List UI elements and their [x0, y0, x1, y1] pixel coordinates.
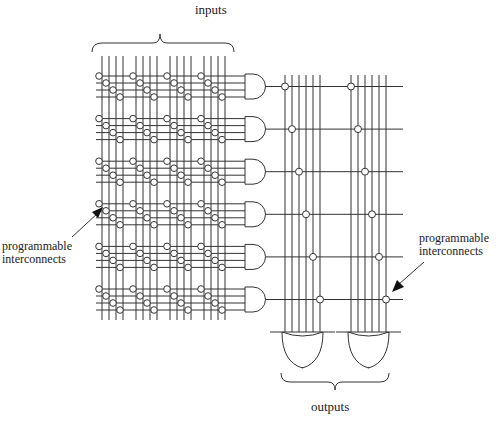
and-interconnect-node — [103, 80, 110, 87]
and-interconnect-node — [103, 208, 110, 215]
and-plane — [96, 56, 245, 320]
right-annotation-label: programmable interconnects — [419, 232, 489, 258]
right-annotation-line2: interconnects — [419, 245, 489, 258]
and-interconnect-node — [144, 215, 151, 222]
and-interconnect-node — [151, 179, 158, 186]
and-interconnect-node — [103, 250, 110, 257]
and-interconnect-node — [144, 300, 151, 307]
and-interconnect-node — [178, 300, 185, 307]
and-interconnect-node — [110, 215, 117, 222]
and-gate-icon — [245, 117, 266, 142]
and-interconnect-node — [130, 158, 137, 165]
or-gate-icon — [282, 332, 323, 368]
and-interconnect-node — [164, 115, 171, 122]
outputs-label: outputs — [311, 400, 349, 413]
and-interconnect-node — [117, 222, 124, 229]
and-interconnect-node — [110, 172, 117, 179]
or-interconnect-node — [289, 126, 296, 133]
and-interconnect-node — [137, 80, 144, 87]
and-interconnect-node — [144, 172, 151, 179]
and-interconnect-node — [117, 264, 124, 271]
and-interconnect-node — [198, 243, 205, 250]
and-interconnect-node — [137, 293, 144, 300]
and-interconnect-node — [198, 115, 205, 122]
and-interconnect-node — [151, 136, 158, 143]
and-interconnect-node — [137, 165, 144, 172]
or-interconnect-node — [348, 83, 355, 90]
inputs-label: inputs — [195, 3, 227, 16]
and-interconnect-node — [178, 129, 185, 136]
and-interconnect-node — [117, 307, 124, 314]
and-interconnect-node — [212, 300, 219, 307]
and-interconnect-node — [137, 122, 144, 129]
and-interconnect-node — [185, 94, 192, 101]
and-interconnect-node — [205, 165, 212, 172]
and-interconnect-node — [96, 201, 103, 208]
pla-diagram — [0, 0, 503, 424]
and-interconnect-node — [171, 208, 178, 215]
and-interconnect-node — [198, 286, 205, 293]
and-interconnect-node — [205, 250, 212, 257]
and-interconnect-node — [130, 286, 137, 293]
and-interconnect-node — [171, 165, 178, 172]
and-interconnect-node — [178, 257, 185, 264]
or-interconnect-node — [362, 168, 369, 175]
and-interconnect-node — [151, 264, 158, 271]
and-interconnect-node — [130, 243, 137, 250]
outputs-brace — [281, 373, 389, 390]
and-interconnect-node — [144, 257, 151, 264]
and-gate-icon — [245, 287, 266, 312]
and-interconnect-node — [164, 158, 171, 165]
and-interconnect-node — [117, 94, 124, 101]
or-gate-icon — [348, 332, 389, 368]
or-gates — [270, 332, 401, 368]
and-interconnect-node — [164, 201, 171, 208]
or-interconnect-node — [310, 253, 317, 260]
and-interconnect-node — [198, 201, 205, 208]
left-annotation-label: programmable interconnects — [2, 240, 72, 266]
or-interconnect-node — [383, 296, 390, 303]
and-interconnect-node — [219, 222, 226, 229]
and-interconnect-node — [171, 80, 178, 87]
or-interconnect-node — [376, 253, 383, 260]
and-interconnect-node — [212, 87, 219, 94]
and-interconnect-node — [185, 264, 192, 271]
and-interconnect-node — [178, 87, 185, 94]
and-interconnect-node — [96, 115, 103, 122]
and-interconnect-node — [117, 136, 124, 143]
left-annotation-line2: interconnects — [2, 253, 72, 266]
and-interconnect-node — [96, 73, 103, 80]
and-interconnect-node — [164, 73, 171, 80]
and-gate-icon — [245, 159, 266, 184]
inputs-brace — [92, 34, 234, 52]
and-interconnect-node — [96, 158, 103, 165]
annotation-arrows — [72, 207, 424, 292]
or-interconnect-node — [282, 83, 289, 90]
and-interconnect-node — [137, 250, 144, 257]
and-interconnect-node — [219, 307, 226, 314]
and-interconnect-node — [110, 87, 117, 94]
or-interconnect-node — [355, 126, 362, 133]
and-interconnect-node — [103, 293, 110, 300]
or-interconnect-node — [369, 211, 376, 218]
and-interconnect-node — [185, 222, 192, 229]
or-plane — [266, 75, 404, 332]
and-interconnect-node — [164, 243, 171, 250]
and-gate-icon — [245, 74, 265, 99]
and-interconnect-node — [205, 80, 212, 87]
and-interconnect-node — [219, 136, 226, 143]
and-interconnect-node — [171, 250, 178, 257]
and-gate-icon — [245, 202, 266, 227]
and-gates — [245, 74, 266, 312]
and-interconnect-node — [151, 307, 158, 314]
and-interconnect-node — [212, 257, 219, 264]
and-interconnect-node — [110, 129, 117, 136]
and-interconnect-node — [185, 136, 192, 143]
and-interconnect-node — [198, 158, 205, 165]
and-interconnect-node — [212, 129, 219, 136]
and-interconnect-node — [185, 307, 192, 314]
and-interconnect-node — [212, 172, 219, 179]
and-interconnect-node — [151, 94, 158, 101]
and-interconnect-node — [110, 300, 117, 307]
and-interconnect-node — [219, 179, 226, 186]
